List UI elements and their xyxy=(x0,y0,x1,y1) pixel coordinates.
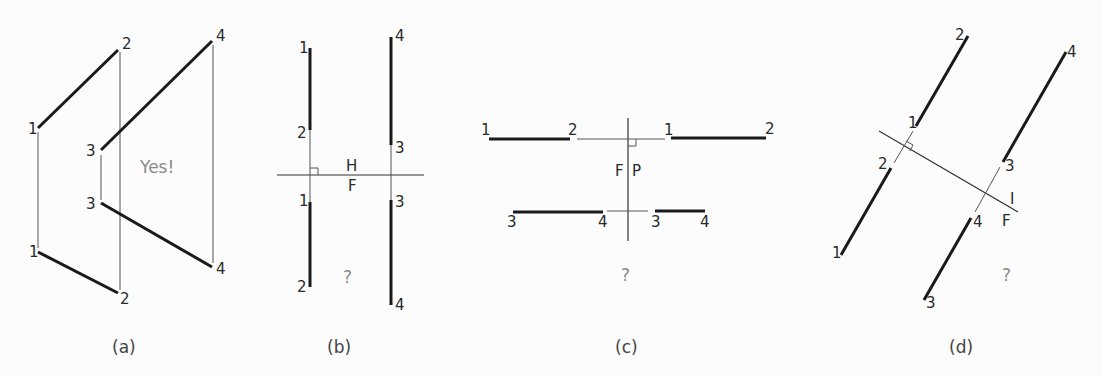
projector-12 xyxy=(894,131,913,163)
point-label: 3 xyxy=(395,139,405,157)
point-label: 3 xyxy=(1005,157,1015,175)
right-angle-mark xyxy=(628,139,636,146)
panel-d: 2 1 2 1 4 3 I F 4 3 ? (d) xyxy=(832,26,1077,357)
line-12-upper xyxy=(916,36,968,126)
point-label: 3 xyxy=(926,294,936,312)
point-label: 1 xyxy=(664,121,674,139)
point-label: 1 xyxy=(29,243,39,261)
point-label: 1 xyxy=(299,192,309,210)
fold-label-h: H xyxy=(346,157,357,175)
point-label: 2 xyxy=(955,26,965,44)
line-12-lower xyxy=(841,168,891,255)
question-mark: ? xyxy=(1002,265,1011,285)
point-label: 3 xyxy=(651,213,661,231)
panel-caption: (b) xyxy=(327,337,351,357)
answer-note: Yes! xyxy=(139,157,174,177)
question-mark: ? xyxy=(621,265,630,285)
point-label: 2 xyxy=(122,35,132,53)
point-label: 3 xyxy=(86,195,96,213)
point-label: 1 xyxy=(908,114,918,132)
point-label: 1 xyxy=(299,39,309,57)
point-label: 1 xyxy=(481,121,491,139)
line-12-top xyxy=(38,50,118,128)
panel-b: 1 2 4 3 H F 1 2 3 4 ? (b) xyxy=(277,27,424,357)
line-34-bottom xyxy=(101,203,212,267)
fold-label-f: F xyxy=(348,177,357,195)
point-label: 3 xyxy=(395,193,405,211)
panel-c: 1 2 1 2 F P 3 4 3 4 ? (c) xyxy=(481,118,775,357)
fold-label-i: I xyxy=(1010,190,1014,208)
right-angle-mark xyxy=(310,168,318,175)
point-label: 4 xyxy=(216,27,226,45)
fold-label-p: P xyxy=(632,162,641,180)
panel-a: 1 2 3 4 3 4 1 2 Yes! (a) xyxy=(28,27,226,357)
fold-label-f: F xyxy=(1002,212,1011,230)
point-label: 2 xyxy=(120,290,130,308)
point-label: 4 xyxy=(395,27,405,45)
panel-caption: (a) xyxy=(112,337,136,357)
line-34-lower xyxy=(924,218,971,300)
point-label: 1 xyxy=(28,120,38,138)
right-angle-mark xyxy=(906,141,913,151)
line-12-bottom xyxy=(38,252,118,293)
point-label: 2 xyxy=(568,121,578,139)
point-label: 4 xyxy=(598,213,608,231)
line-34-top xyxy=(101,41,212,150)
point-label: 2 xyxy=(765,120,775,138)
point-label: 2 xyxy=(297,278,307,296)
point-label: 4 xyxy=(973,213,983,231)
point-label: 4 xyxy=(1067,43,1077,61)
point-label: 4 xyxy=(216,260,226,278)
point-label: 3 xyxy=(507,213,517,231)
point-label: 3 xyxy=(86,142,96,160)
point-label: 4 xyxy=(700,213,710,231)
parallel-lines-figure: 1 2 3 4 3 4 1 2 Yes! (a) 1 2 4 3 H F 1 2… xyxy=(0,0,1102,376)
panel-caption: (c) xyxy=(615,337,638,357)
line-34-upper xyxy=(1003,52,1066,162)
point-label: 1 xyxy=(832,244,842,262)
question-mark: ? xyxy=(343,267,352,287)
point-label: 2 xyxy=(878,155,888,173)
panel-caption: (d) xyxy=(949,337,973,357)
fold-label-f: F xyxy=(615,162,624,180)
point-label: 4 xyxy=(395,296,405,314)
point-label: 2 xyxy=(297,124,307,142)
